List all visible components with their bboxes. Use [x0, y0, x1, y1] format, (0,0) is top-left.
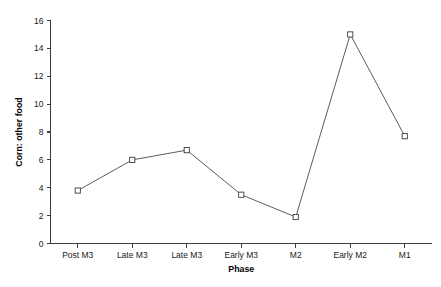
x-axis-tick-label: Early M2	[333, 250, 367, 260]
x-axis-tick-label: Early M3	[224, 250, 258, 260]
series-line	[78, 34, 405, 217]
data-point-marker	[184, 148, 189, 153]
data-point-marker	[75, 188, 80, 193]
y-axis-tick-label: 0	[39, 239, 44, 249]
line-chart-canvas: 0246810121416Post M3Late M3Late M3Early …	[0, 0, 441, 287]
data-point-marker	[402, 134, 407, 139]
y-axis-tick-label: 10	[34, 99, 44, 109]
x-axis-tick-label: M1	[399, 250, 411, 260]
data-point-marker	[293, 214, 298, 219]
data-point-marker	[239, 192, 244, 197]
y-axis-tick-label: 12	[34, 71, 44, 81]
y-axis-tick-label: 6	[39, 155, 44, 165]
x-axis-tick-label: Late M3	[171, 250, 202, 260]
y-axis-tick-label: 4	[39, 183, 44, 193]
x-axis-tick-label: Post M3	[62, 250, 93, 260]
x-axis-tick-label: M2	[290, 250, 302, 260]
chart-figure: 0246810121416Post M3Late M3Late M3Early …	[0, 0, 441, 287]
data-point-marker	[130, 157, 135, 162]
y-axis-tick-label: 14	[34, 43, 44, 53]
x-axis-title: Phase	[228, 264, 254, 274]
y-axis-title: Corn: other food	[14, 97, 24, 166]
y-axis-tick-label: 16	[34, 16, 44, 26]
y-axis-tick-label: 2	[39, 211, 44, 221]
data-point-marker	[348, 32, 353, 37]
y-axis-tick-label: 8	[39, 127, 44, 137]
x-axis-tick-label: Late M3	[117, 250, 148, 260]
